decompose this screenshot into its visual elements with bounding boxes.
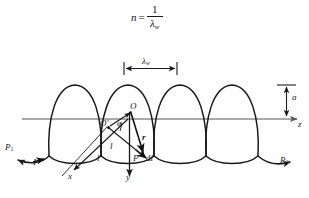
arc-length-label-two: l [97, 154, 100, 163]
point-p-marker [141, 152, 144, 155]
terminal-p2-subscript: 2 [286, 159, 289, 165]
z-axis-label: z [298, 120, 302, 129]
helix-coil [18, 85, 290, 164]
terminal-p1-subscript: 1 [11, 146, 14, 152]
point-oprime-label: O′ [100, 119, 108, 128]
point-o-marker [129, 111, 132, 114]
amplitude-label: a [292, 93, 297, 102]
x-axis-label: x [68, 172, 72, 181]
radius-vector-label: r [142, 133, 146, 142]
terminal-p2-label: P2 [280, 156, 288, 166]
wavelength-label: λw [142, 57, 150, 67]
wavelength-subscript: w [146, 60, 150, 66]
terminal-p1-label: P1 [5, 143, 13, 153]
figure-canvas: n = 1 λw [0, 0, 309, 198]
current-label: I [33, 158, 36, 167]
current-element-symbol: l [151, 153, 154, 163]
angle-phi-label: φ [117, 120, 121, 128]
point-p-label: P [133, 154, 139, 163]
arc-length-label-one: l [110, 142, 113, 151]
helix-diagram-svg [0, 0, 309, 198]
point-o-label: O [130, 102, 137, 111]
wavelength-measure [124, 62, 177, 75]
y-axis-label: y [126, 173, 130, 182]
current-element-label: dl [146, 154, 153, 163]
